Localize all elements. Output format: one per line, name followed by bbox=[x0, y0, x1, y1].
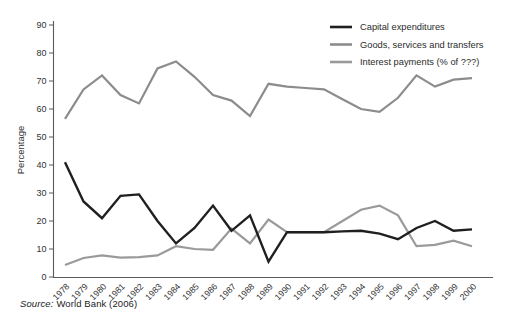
y-tick-label: 10 bbox=[36, 244, 46, 254]
line-chart: 0102030405060708090 19781979198019811982… bbox=[0, 0, 509, 326]
y-tick-label: 40 bbox=[36, 160, 46, 170]
series-line-interest-payments-of bbox=[65, 206, 472, 265]
series-line-capital-expenditures bbox=[65, 162, 472, 261]
x-tick-label: 1991 bbox=[291, 281, 312, 302]
x-tick-label: 1997 bbox=[402, 281, 423, 302]
y-tick-label: 30 bbox=[36, 188, 46, 198]
x-tick-label: 1998 bbox=[421, 281, 442, 302]
x-tick-label: 1987 bbox=[217, 281, 238, 302]
x-tick-label: 1990 bbox=[273, 281, 294, 302]
legend-label: Capital expenditures bbox=[360, 22, 445, 32]
x-tick-label: 1996 bbox=[384, 281, 405, 302]
y-axis-ticks: 0102030405060708090 bbox=[36, 20, 53, 282]
x-tick-label: 1999 bbox=[439, 281, 460, 302]
x-tick-label: 1993 bbox=[328, 281, 349, 302]
legend-label: Interest payments (% of ???) bbox=[360, 57, 479, 67]
x-tick-label: 1989 bbox=[254, 281, 275, 302]
y-tick-label: 80 bbox=[36, 48, 46, 58]
y-tick-label: 90 bbox=[36, 20, 46, 30]
series-line-goods-services-and-transfers bbox=[65, 61, 472, 118]
series-lines bbox=[65, 61, 472, 265]
x-tick-label: 1995 bbox=[365, 281, 386, 302]
y-tick-label: 50 bbox=[36, 132, 46, 142]
chart-figure: 0102030405060708090 19781979198019811982… bbox=[0, 0, 509, 326]
source-text: World Bank (2006) bbox=[56, 298, 137, 309]
x-tick-label: 1988 bbox=[236, 281, 257, 302]
x-tick-label: 2000 bbox=[458, 281, 479, 302]
legend: Capital expendituresGoods, services and … bbox=[330, 22, 484, 67]
legend-label: Goods, services and transfers bbox=[360, 40, 484, 50]
y-tick-label: 0 bbox=[41, 272, 46, 282]
x-tick-label: 1992 bbox=[310, 281, 331, 302]
source-note: Source:World Bank (2006) bbox=[20, 298, 137, 309]
y-axis-title: Percentage bbox=[15, 126, 26, 175]
x-tick-label: 1985 bbox=[180, 281, 201, 302]
y-tick-label: 20 bbox=[36, 216, 46, 226]
y-tick-label: 70 bbox=[36, 76, 46, 86]
y-tick-label: 60 bbox=[36, 104, 46, 114]
x-tick-label: 1984 bbox=[162, 281, 183, 302]
x-tick-label: 1986 bbox=[199, 281, 220, 302]
source-label: Source: bbox=[20, 298, 53, 309]
x-tick-label: 1983 bbox=[143, 281, 164, 302]
x-tick-label: 1994 bbox=[347, 281, 368, 302]
